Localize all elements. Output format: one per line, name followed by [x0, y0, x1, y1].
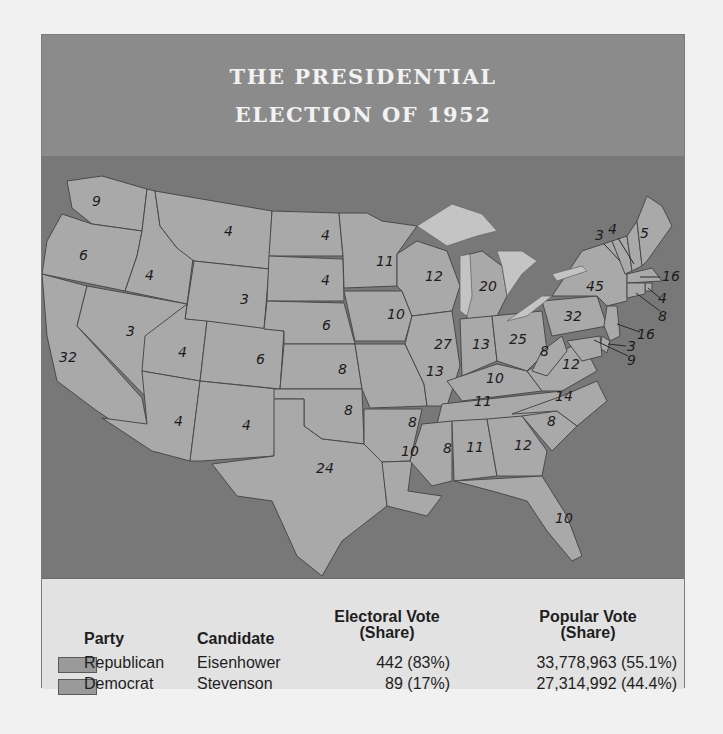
ev-label-wa: 9 [92, 193, 101, 209]
us-map-svg: 9 6 32 4 3 4 3 4 6 4 4 4 4 6 8 8 24 11 1… [42, 156, 684, 578]
ev-label-mt: 4 [224, 223, 233, 239]
state-south-dakota [267, 256, 344, 301]
ev-label-mi: 20 [479, 278, 497, 294]
ev-label-me: 5 [640, 225, 649, 241]
ev-label-ny: 45 [586, 278, 604, 294]
state-north-dakota [269, 211, 343, 256]
state-shapes [42, 176, 672, 576]
results-legend: Party Candidate Electoral Vote (Share) P… [42, 578, 684, 689]
ev-label-or: 6 [79, 247, 88, 263]
title-line-1: THE PRESIDENTIAL [230, 58, 497, 96]
ev-label-ma: 16 [662, 268, 680, 284]
ev-label-al: 11 [466, 439, 484, 455]
ev-label-la: 10 [401, 443, 419, 459]
electoral-vote: 442 (83%) [317, 654, 450, 672]
ev-label-ks: 8 [338, 361, 347, 377]
ev-label-nj: 16 [637, 326, 655, 342]
state-new-mexico [190, 381, 277, 461]
electoral-vote: 89 (17%) [317, 675, 450, 693]
state-kansas [280, 344, 362, 389]
popular-vote: 33,778,963 (55.1%) [482, 654, 677, 672]
ev-label-sc: 8 [547, 413, 556, 429]
election-map-figure: THE PRESIDENTIAL ELECTION OF 1952 [41, 34, 685, 688]
party-name: Democrat [84, 675, 153, 693]
legend-header-candidate: Candidate [197, 631, 274, 647]
legend-header-party: Party [84, 631, 124, 647]
ev-label-ga: 12 [514, 437, 532, 453]
ev-label-wv: 8 [540, 343, 549, 359]
ev-label-nm: 4 [242, 417, 251, 433]
ev-label-vt: 3 [595, 227, 604, 243]
ev-label-id: 4 [145, 267, 154, 283]
ev-label-ut: 4 [178, 344, 187, 360]
ev-label-ok: 8 [344, 402, 353, 418]
state-wyoming [185, 261, 269, 329]
ev-label-az: 4 [174, 413, 183, 429]
ev-label-ar: 8 [408, 414, 417, 430]
ev-label-tn: 11 [474, 393, 492, 409]
legend-header-popular-line2: (Share) [498, 625, 678, 641]
ev-label-md: 9 [627, 352, 636, 368]
ev-label-mn: 11 [376, 253, 394, 269]
ev-label-va: 12 [562, 356, 580, 372]
leader-de [608, 344, 626, 346]
ev-label-fl: 10 [555, 510, 573, 526]
ev-label-il: 27 [434, 336, 452, 352]
ev-label-oh: 25 [509, 331, 527, 347]
candidate-name: Stevenson [197, 675, 273, 693]
ev-label-nd: 4 [321, 227, 330, 243]
ev-label-pa: 32 [564, 308, 582, 324]
ev-label-sd: 4 [321, 272, 330, 288]
legend-header-electoral-line1: Electoral Vote [317, 609, 457, 625]
candidate-name: Eisenhower [197, 654, 281, 672]
ev-label-wy: 3 [240, 291, 249, 307]
legend-header-popular-line1: Popular Vote [498, 609, 678, 625]
leader-ct [636, 293, 660, 311]
ev-label-ky: 10 [486, 370, 504, 386]
us-map: 9 6 32 4 3 4 3 4 6 4 4 4 4 6 8 8 24 11 1… [42, 156, 684, 578]
title-band: THE PRESIDENTIAL ELECTION OF 1952 [42, 35, 684, 156]
ev-label-nc: 14 [555, 388, 573, 404]
state-connecticut [627, 283, 645, 298]
ev-label-ne: 6 [322, 317, 331, 333]
party-name: Republican [84, 654, 164, 672]
ev-label-ms: 8 [443, 440, 452, 456]
ev-label-co: 6 [256, 351, 265, 367]
ev-label-wi: 12 [425, 268, 443, 284]
state-rhode-island [645, 283, 652, 291]
lake-superior [417, 204, 497, 246]
ev-label-nh: 4 [608, 221, 617, 237]
legend-header-electoral-line2: (Share) [317, 625, 457, 641]
title-line-2: ELECTION OF 1952 [235, 96, 492, 134]
state-colorado [200, 321, 284, 389]
ev-label-mo: 13 [426, 363, 444, 379]
state-new-jersey [604, 306, 620, 341]
popular-vote: 27,314,992 (44.4%) [482, 675, 677, 693]
ev-label-nv: 3 [126, 323, 135, 339]
ev-label-in: 13 [472, 336, 490, 352]
ev-label-tx: 24 [316, 460, 334, 476]
ev-label-ia: 10 [387, 306, 405, 322]
ev-label-ca: 32 [59, 349, 77, 365]
